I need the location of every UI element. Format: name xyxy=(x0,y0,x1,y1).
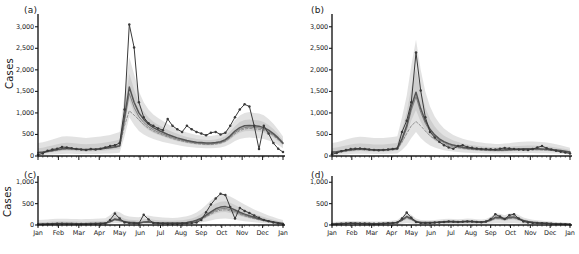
plot-area-b xyxy=(287,0,574,170)
x-tick-label: Jan xyxy=(558,229,579,237)
panel-b: (b) 05001,0001,5002,0002,5003,000 xyxy=(287,0,574,170)
panel-c: (c) Cases 05001,000 JanFebMarAprMayJunJu… xyxy=(0,168,287,254)
plot-area-c xyxy=(0,168,287,238)
panel-d: (d) 05001,000 JanFebMarAprMayJunJulAugSe… xyxy=(287,168,574,254)
plot-area-d xyxy=(287,168,574,238)
plot-area-a xyxy=(0,0,287,170)
panel-a: (a) Cases 05001,0001,5002,0002,5003,000 xyxy=(0,0,287,170)
